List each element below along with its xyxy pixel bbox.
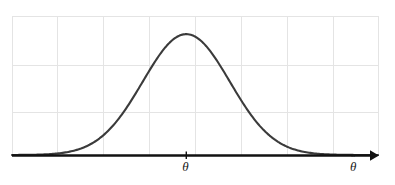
x-axis-center-label: θ [182, 160, 188, 173]
caret-icon: ˆ [351, 154, 355, 165]
sampling-distribution-figure: θ θ ˆ [0, 0, 395, 185]
x-axis-variable-label: θ ˆ [350, 160, 356, 173]
theta-hat-glyph: θ ˆ [350, 160, 356, 173]
x-axis-arrowhead [370, 150, 379, 160]
plot-canvas [0, 0, 395, 185]
